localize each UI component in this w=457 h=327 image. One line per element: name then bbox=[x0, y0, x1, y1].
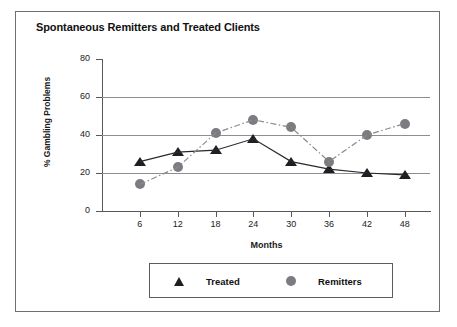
y-axis-tick-label: 40 bbox=[64, 130, 90, 139]
x-axis-tick bbox=[253, 212, 254, 217]
data-point-remitters-42 bbox=[362, 130, 372, 140]
chart-title: Spontaneous Remitters and Treated Client… bbox=[36, 21, 260, 33]
plot-area bbox=[102, 59, 430, 211]
data-point-remitters-12 bbox=[173, 162, 183, 172]
y-axis-tick-label: 20 bbox=[64, 168, 90, 177]
x-axis-tick-label: 30 bbox=[276, 219, 306, 229]
x-axis-tick-label: 18 bbox=[201, 219, 231, 229]
circle-marker-icon bbox=[286, 276, 296, 286]
chart-figure: Spontaneous Remitters and Treated Client… bbox=[15, 11, 440, 312]
gridline bbox=[102, 97, 430, 98]
data-point-remitters-48 bbox=[400, 119, 410, 129]
x-axis-tick-label: 6 bbox=[125, 219, 155, 229]
x-axis-title: Months bbox=[102, 240, 431, 250]
data-point-treated-6 bbox=[134, 157, 146, 166]
data-point-treated-30 bbox=[285, 157, 297, 166]
data-point-remitters-24 bbox=[248, 115, 258, 125]
x-axis-tick bbox=[140, 212, 141, 217]
gridline bbox=[102, 173, 430, 174]
legend-item-treated: Treated bbox=[174, 274, 240, 288]
gridline bbox=[102, 135, 430, 136]
x-axis-tick bbox=[216, 212, 217, 217]
data-point-treated-18 bbox=[210, 145, 222, 154]
x-axis-tick-label: 48 bbox=[390, 219, 420, 229]
data-point-remitters-30 bbox=[286, 122, 296, 132]
data-point-remitters-6 bbox=[135, 179, 145, 189]
x-axis-tick-label: 24 bbox=[238, 219, 268, 229]
chart-legend: Treated Remitters bbox=[149, 263, 393, 298]
data-point-treated-42 bbox=[361, 168, 373, 177]
x-axis-tick-label: 36 bbox=[314, 219, 344, 229]
data-point-remitters-36 bbox=[324, 157, 334, 167]
data-point-remitters-18 bbox=[211, 128, 221, 138]
y-axis-tick-label: 80 bbox=[64, 54, 90, 63]
legend-label-remitters: Remitters bbox=[318, 276, 362, 287]
data-point-treated-24 bbox=[247, 134, 259, 143]
data-point-treated-48 bbox=[399, 170, 411, 179]
x-axis-tick bbox=[178, 212, 179, 217]
legend-item-remitters: Remitters bbox=[286, 274, 362, 288]
y-axis-tick-label: 0 bbox=[64, 206, 90, 215]
x-axis-tick-label: 12 bbox=[163, 219, 193, 229]
x-axis-tick bbox=[291, 212, 292, 217]
x-axis-tick bbox=[329, 212, 330, 217]
x-axis-tick bbox=[405, 212, 406, 217]
triangle-marker-icon bbox=[174, 277, 184, 286]
data-point-treated-12 bbox=[172, 147, 184, 156]
x-axis-line bbox=[102, 211, 431, 212]
y-axis-title: % Gambling Problems bbox=[42, 67, 52, 177]
legend-label-treated: Treated bbox=[206, 276, 240, 287]
x-axis-tick bbox=[367, 212, 368, 217]
y-axis-tick-label: 60 bbox=[64, 92, 90, 101]
x-axis-tick-label: 42 bbox=[352, 219, 382, 229]
